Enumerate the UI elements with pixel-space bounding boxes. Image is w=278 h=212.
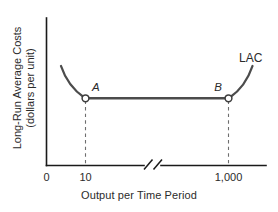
curve-label-lac: LAC	[239, 51, 263, 65]
y-axis-title: Long-Run Average Costs (dollars per unit…	[11, 27, 37, 150]
x-tick-label-0: 0	[43, 171, 49, 183]
lac-declining-arm	[61, 66, 85, 98]
lac-curve-figure: A B LAC 0 10 1,000 Long-Run Average Cost…	[0, 0, 278, 212]
y-axis-title-line-2: (dollars per unit)	[24, 27, 37, 150]
x-axis-title: Output per Time Period	[0, 189, 278, 201]
axis-break-slash-left	[144, 160, 153, 170]
y-axis-title-line-1: Long-Run Average Costs	[11, 27, 24, 150]
lac-rising-arm	[230, 66, 253, 98]
point-label-b: B	[214, 81, 222, 93]
point-marker-b[interactable]	[225, 95, 232, 102]
axis-break-slash-right	[154, 160, 163, 170]
x-tick-label-1000: 1,000	[215, 171, 243, 183]
y-axis-title-wrapper: Long-Run Average Costs (dollars per unit…	[2, 12, 46, 164]
point-label-a: A	[91, 81, 100, 93]
x-tick-label-10: 10	[79, 171, 91, 183]
point-marker-a[interactable]	[82, 95, 89, 102]
